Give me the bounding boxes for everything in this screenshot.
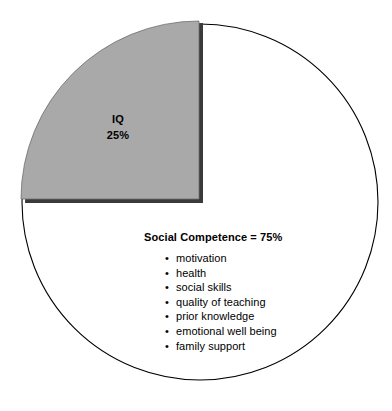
pie-slice-iq <box>21 21 199 199</box>
bullet-icon: • <box>165 324 169 339</box>
list-item: • family support <box>165 339 277 354</box>
iq-slice-label: IQ 25% <box>80 114 156 141</box>
social-competence-factor-list: • motivation • health • social skills • … <box>165 251 277 353</box>
pie-chart-figure: IQ 25% Social Competence = 75% • motivat… <box>0 0 392 411</box>
list-item: • health <box>165 266 277 281</box>
list-item-label: prior knowledge <box>176 310 254 322</box>
list-item: • quality of teaching <box>165 295 277 310</box>
list-item-label: health <box>176 267 206 279</box>
list-item-label: motivation <box>176 252 227 264</box>
bullet-icon: • <box>165 339 169 354</box>
list-item: • social skills <box>165 280 277 295</box>
bullet-icon: • <box>165 266 169 281</box>
iq-slice-name: IQ <box>80 114 156 125</box>
list-item-label: family support <box>176 340 245 352</box>
list-item-label: social skills <box>176 281 232 293</box>
iq-slice-percent: 25% <box>80 130 156 141</box>
list-item: • motivation <box>165 251 277 266</box>
bullet-icon: • <box>165 309 169 324</box>
bullet-icon: • <box>165 280 169 295</box>
bullet-icon: • <box>165 295 169 310</box>
list-item: • emotional well being <box>165 324 277 339</box>
social-competence-heading: Social Competence = 75% <box>144 232 282 243</box>
list-item-label: emotional well being <box>176 325 277 337</box>
list-item-label: quality of teaching <box>176 296 266 308</box>
list-item: • prior knowledge <box>165 309 277 324</box>
bullet-icon: • <box>165 251 169 266</box>
